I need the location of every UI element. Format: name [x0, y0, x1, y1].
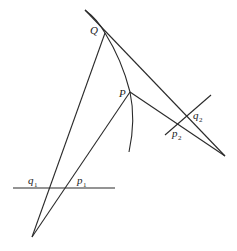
line-q-tangent [85, 10, 225, 156]
line-q-to-apex [32, 33, 105, 237]
label-P: P [118, 87, 126, 99]
label-p2-sub: 2 [178, 134, 182, 142]
label-p1: p [76, 174, 83, 186]
geometry-diagram: Q P q 2 p 2 q 1 p 1 [0, 0, 237, 251]
label-q2-sub: 2 [199, 116, 203, 124]
label-p2: p [171, 127, 178, 139]
label-Q: Q [90, 24, 98, 36]
label-q1-sub: 1 [34, 181, 38, 189]
line-p-to-apex [32, 92, 130, 237]
label-p1-sub: 1 [83, 181, 87, 189]
